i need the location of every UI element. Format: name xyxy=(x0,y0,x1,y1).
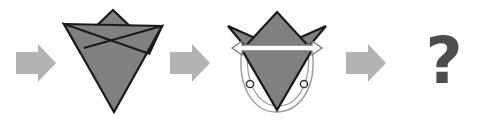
right-arrow-shape xyxy=(16,44,56,82)
folded-figure-2 xyxy=(212,0,342,122)
question-mark-glyph: ? xyxy=(400,0,488,122)
right-arrow-shape xyxy=(170,44,210,82)
right-arrow-icon xyxy=(344,0,388,122)
body-facet xyxy=(64,24,162,112)
process-arrow-1 xyxy=(14,0,58,122)
folded-figure-1 xyxy=(58,0,170,122)
unknown-result: ? xyxy=(400,0,488,122)
folded-figure-2-graphic xyxy=(212,0,342,122)
right-arrow-shape xyxy=(346,44,386,82)
right-arrow-icon xyxy=(14,0,58,122)
diagram-canvas: ? xyxy=(0,0,489,122)
right-arrow-icon xyxy=(168,0,212,122)
left-pivot-circle xyxy=(246,80,253,87)
process-arrow-2 xyxy=(168,0,212,122)
folded-figure-1-graphic xyxy=(58,0,170,122)
right-pivot-circle xyxy=(300,80,307,87)
process-arrow-3 xyxy=(344,0,388,122)
